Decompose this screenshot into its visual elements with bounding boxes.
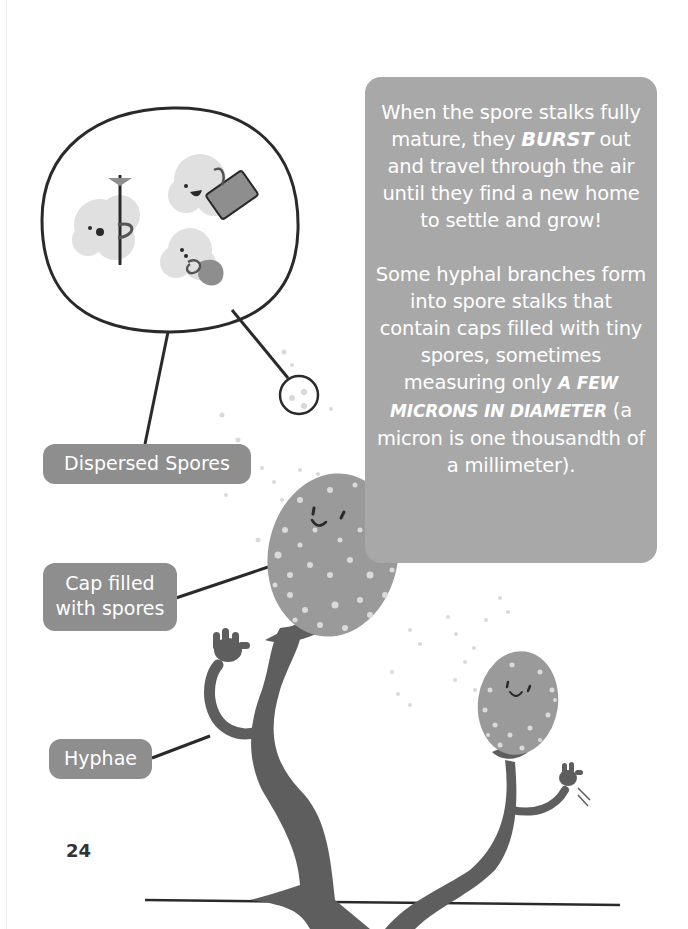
- info-text-box: When the spore stalks fully mature, they…: [365, 77, 657, 563]
- label-hyphae: Hyphae: [49, 739, 152, 779]
- info-paragraph-2: Some hyphal branches form into spore sta…: [375, 261, 647, 479]
- info-emphasis: BURST: [521, 128, 593, 151]
- page-number: 24: [66, 840, 91, 861]
- small-spore-stalk-character: [385, 646, 590, 929]
- hyphae-pointer-line: [152, 736, 210, 758]
- cap-pointer-line: [176, 567, 268, 598]
- label-cap-filled-with-spores: Cap filled with spores: [43, 563, 177, 631]
- label-line: Cap filled: [43, 571, 177, 596]
- label-line: with spores: [43, 596, 177, 621]
- ground-line: [145, 900, 620, 905]
- info-paragraph-1: When the spore stalks fully mature, they…: [375, 99, 647, 234]
- label-dispersed-spores: Dispersed Spores: [43, 444, 251, 484]
